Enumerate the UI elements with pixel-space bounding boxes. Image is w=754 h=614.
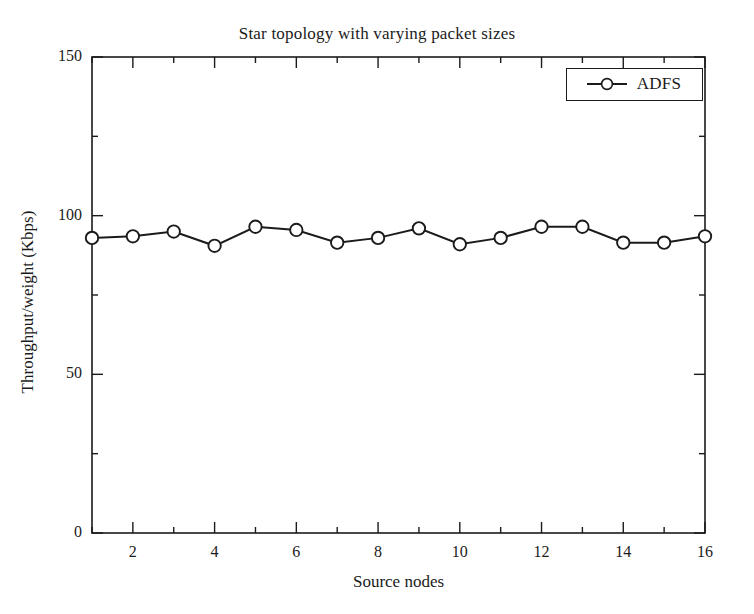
legend: ADFS (566, 68, 703, 101)
x-tick-label: 8 (358, 543, 398, 561)
data-point-marker (127, 230, 139, 242)
legend-marker-icon (586, 76, 628, 92)
x-tick-label: 14 (603, 543, 643, 561)
y-tick-label: 150 (36, 47, 82, 65)
x-tick-label: 10 (440, 543, 480, 561)
data-point-marker (331, 236, 343, 248)
plot-frame (92, 57, 705, 533)
data-point-marker (494, 232, 506, 244)
data-point-marker (249, 221, 261, 233)
y-tick-label: 100 (36, 206, 82, 224)
data-point-marker (168, 225, 180, 237)
data-point-marker (413, 222, 425, 234)
data-point-marker (290, 224, 302, 236)
tick-marks (92, 57, 705, 533)
data-point-marker (617, 236, 629, 248)
data-point-marker (658, 236, 670, 248)
x-tick-label: 2 (113, 543, 153, 561)
data-series-adfs (86, 221, 711, 252)
y-tick-label: 0 (36, 523, 82, 541)
data-point-marker (535, 221, 547, 233)
series-line (92, 227, 705, 246)
data-point-marker (699, 230, 711, 242)
data-point-marker (86, 232, 98, 244)
data-point-marker (576, 221, 588, 233)
x-tick-label: 4 (195, 543, 235, 561)
x-tick-label: 6 (276, 543, 316, 561)
data-point-marker (208, 240, 220, 252)
x-tick-label: 12 (522, 543, 562, 561)
y-tick-label: 50 (36, 364, 82, 382)
x-tick-label: 16 (685, 543, 725, 561)
data-point-marker (372, 232, 384, 244)
data-point-marker (454, 238, 466, 250)
chart-figure: Star topology with varying packet sizes … (0, 0, 754, 614)
legend-label-adfs: ADFS (637, 74, 682, 94)
